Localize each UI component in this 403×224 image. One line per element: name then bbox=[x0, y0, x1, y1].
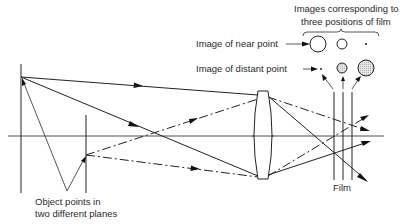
near-image-circle-medium bbox=[337, 39, 347, 49]
distant-image-circle-medium bbox=[337, 63, 347, 73]
near-image-dot bbox=[365, 43, 367, 45]
images-header-line1: Images corresponding to bbox=[294, 3, 399, 14]
ray-distant-upper-out bbox=[268, 97, 366, 130]
distant-point-label: Image of distant point bbox=[196, 63, 287, 74]
images-header-line2: three positions of film bbox=[301, 16, 391, 27]
distant-image-dot bbox=[320, 68, 322, 70]
optics-diagram: Images corresponding to three positions … bbox=[0, 0, 403, 224]
pointer-to-distant-object-head bbox=[81, 156, 86, 163]
near-point-arrowhead bbox=[302, 42, 310, 47]
ray-distant-lower-arrow bbox=[191, 166, 201, 172]
ray-near-upper-arrow bbox=[134, 83, 144, 89]
ray-near-lower-out-arrow bbox=[361, 141, 371, 146]
film-label: Film bbox=[333, 182, 351, 193]
near-image-circle-large bbox=[310, 36, 326, 52]
ray-distant-upper-in bbox=[86, 99, 258, 155]
film3-pointer bbox=[352, 80, 358, 89]
object-label-line2: two different planes bbox=[35, 208, 117, 219]
near-point-label: Image of near point bbox=[196, 38, 278, 49]
ray-near-lower-out bbox=[268, 142, 368, 175]
pointer-to-distant-object bbox=[67, 159, 84, 191]
brace bbox=[303, 29, 379, 36]
ray-distant-upper-arrow bbox=[189, 118, 198, 124]
ray-distant-lower-in bbox=[86, 155, 258, 177]
ray-distant-upper-out-arrow bbox=[360, 126, 370, 131]
distant-image-circle-large bbox=[358, 60, 374, 76]
ray-near-lower-arrow bbox=[128, 121, 139, 127]
film2-pointer-head bbox=[341, 76, 345, 81]
film3-pointer-head bbox=[355, 76, 361, 82]
lens bbox=[254, 91, 272, 179]
object-label-line1: Object points in bbox=[35, 196, 100, 207]
distant-point-arrowhead bbox=[311, 67, 318, 72]
